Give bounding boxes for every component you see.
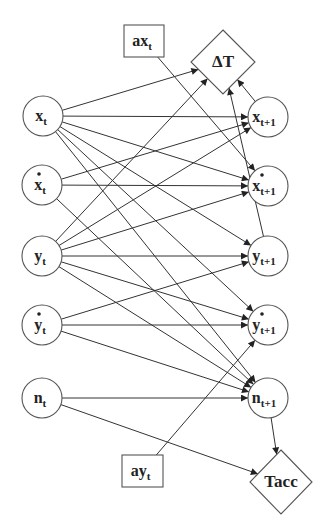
label-main: ax: [132, 32, 148, 49]
node-nt1: nt+1: [248, 378, 288, 418]
edge-xt-to-nt1: [56, 132, 256, 383]
label-subscript: t: [42, 324, 46, 336]
edge-dxt-to-nt1: [57, 199, 254, 385]
node-label: Tacc: [264, 472, 298, 491]
node-dxt: xt: [22, 165, 62, 205]
node-xt: xt: [23, 96, 63, 136]
node-yt: yt: [22, 236, 62, 276]
edge-xt1-to-dT: [237, 80, 255, 102]
label-main: Tacc: [264, 472, 298, 491]
label-subscript: t: [148, 40, 152, 52]
label-subscript: t: [43, 115, 47, 127]
edge-yt-to-dxt1: [61, 192, 249, 250]
label-main: x: [35, 107, 43, 124]
label-main: y: [252, 316, 260, 334]
label-subscript: t+1: [261, 397, 276, 409]
label-main: y: [252, 247, 260, 265]
label-subscript: t: [43, 397, 47, 409]
node-nt: nt: [22, 378, 62, 418]
node-dyt1: yt+1: [248, 305, 288, 345]
label-main: y: [34, 247, 42, 265]
label-main: x: [252, 177, 260, 194]
derivative-dot-icon: [37, 172, 41, 176]
label-main: n: [34, 389, 43, 406]
derivative-dot-icon: [260, 312, 264, 316]
label-main: ay: [131, 462, 147, 480]
label-subscript: t: [147, 470, 151, 482]
node-ayt: ayt: [122, 455, 163, 487]
label-main: x: [252, 108, 260, 125]
label-main: ΔT: [212, 52, 235, 71]
label-subscript: t+1: [260, 116, 275, 128]
label-subscript: t+1: [260, 324, 275, 336]
label-main: y: [34, 316, 42, 334]
node-dyt: yt: [22, 305, 62, 345]
edge-dyt-to-nt1: [61, 331, 249, 392]
node-yt1: yt+1: [248, 236, 288, 276]
bayesian-network-diagram: xtxtytytntxt+1xt+1yt+1yt+1nt+1axtaytΔTTa…: [0, 0, 330, 529]
edge-dxt-to-dxt1: [62, 185, 248, 186]
edges-layer: [56, 57, 277, 474]
label-subscript: t+1: [260, 185, 275, 197]
label-main: n: [252, 389, 261, 406]
node-axt: axt: [124, 25, 164, 57]
label-subscript: t+1: [260, 255, 275, 267]
label-main: x: [34, 176, 42, 193]
node-tacc: Tacc: [250, 450, 312, 514]
nodes-layer: xtxtytytntxt+1xt+1yt+1yt+1nt+1axtaytΔTTa…: [22, 25, 312, 514]
node-label: ΔT: [212, 52, 235, 71]
derivative-dot-icon: [37, 312, 41, 316]
edge-xt-to-dT: [62, 69, 198, 110]
label-subscript: t: [42, 255, 46, 267]
edge-yt-to-nt1: [59, 267, 251, 388]
node-dT: ΔT: [191, 30, 255, 94]
edge-xt-to-xt1: [63, 116, 248, 117]
label-subscript: t: [42, 184, 46, 196]
edge-nt1-to-tacc: [271, 418, 277, 455]
node-dxt1: xt+1: [248, 166, 288, 206]
derivative-dot-icon: [260, 173, 264, 177]
node-xt1: xt+1: [248, 97, 288, 137]
